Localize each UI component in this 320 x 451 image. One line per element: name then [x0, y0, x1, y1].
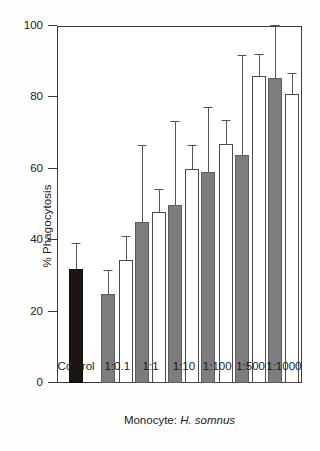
error-bar — [275, 26, 276, 78]
error-bar-cap — [188, 145, 197, 146]
x-axis-label-species: H. somnus — [180, 414, 235, 426]
y-tick-80: 80 — [48, 96, 57, 97]
error-bar — [76, 244, 77, 269]
bar — [219, 144, 233, 383]
y-tick-20: 20 — [48, 311, 57, 312]
bar — [268, 78, 282, 383]
x-tick-label-Control: Control — [58, 361, 95, 373]
y-tick-label-40: 40 — [30, 234, 43, 246]
y-tick-40: 40 — [48, 239, 57, 240]
error-bar — [192, 146, 193, 169]
error-bar — [226, 121, 227, 144]
error-bar — [175, 122, 176, 204]
error-bar-cap — [204, 107, 213, 108]
x-tick-label-1-0-1: 1:0.1 — [104, 361, 130, 373]
error-bar-cap — [288, 73, 297, 74]
error-bar — [242, 56, 243, 154]
phagocytosis-bar-chart: % Phagocytosis 020406080100 Control1:0.1… — [0, 0, 320, 451]
error-bar — [108, 271, 109, 294]
y-axis-label: % Phagocytosis — [41, 184, 53, 267]
error-bar — [142, 146, 143, 223]
error-bar — [259, 55, 260, 76]
y-tick-label-80: 80 — [30, 92, 43, 104]
bar — [152, 212, 166, 383]
error-bar — [208, 108, 209, 172]
error-bar-cap — [137, 145, 146, 146]
bar — [252, 76, 266, 383]
error-bar — [126, 237, 127, 260]
error-bar-cap — [72, 243, 81, 244]
y-tick-label-60: 60 — [30, 163, 43, 175]
bar — [185, 169, 199, 383]
y-tick-60: 60 — [48, 168, 57, 169]
error-bar-cap — [271, 25, 280, 26]
bar — [168, 205, 182, 384]
error-bar-cap — [121, 236, 130, 237]
plot-area: 020406080100 — [57, 26, 302, 383]
error-bar — [292, 74, 293, 94]
y-tick-label-100: 100 — [24, 20, 43, 32]
x-tick-label-1-1: 1:1 — [143, 361, 159, 373]
bar — [235, 155, 249, 383]
error-bar — [159, 190, 160, 211]
x-axis-label-prefix: Monocyte: — [124, 414, 180, 426]
y-tick-label-0: 0 — [37, 377, 43, 389]
bar — [201, 172, 215, 383]
error-bar-cap — [155, 189, 164, 190]
bar — [135, 222, 149, 383]
x-tick-label-1-100: 1:100 — [203, 361, 232, 373]
error-bar-cap — [237, 55, 246, 56]
y-tick-0: 0 — [48, 382, 57, 383]
y-tick-100: 100 — [48, 25, 57, 26]
x-axis-label: Monocyte: H. somnus — [57, 414, 302, 426]
error-bar-cap — [171, 121, 180, 122]
x-tick-label-1-500: 1:500 — [236, 361, 265, 373]
bar — [285, 94, 299, 383]
error-bar-cap — [221, 120, 230, 121]
error-bar-cap — [255, 54, 264, 55]
x-tick-label-1-1000: 1:1000 — [266, 361, 301, 373]
y-tick-label-20: 20 — [30, 306, 43, 318]
error-bar-cap — [104, 270, 113, 271]
x-tick-label-1-10: 1:10 — [173, 361, 195, 373]
